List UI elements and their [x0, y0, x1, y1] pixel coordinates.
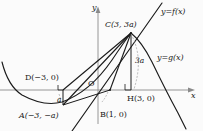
label-point-b: B(1, 0)	[100, 111, 127, 119]
label-curve-g: y=g(x)	[157, 54, 184, 62]
label-point-d: D(−3, 0)	[25, 74, 59, 82]
geometry-figure: y x O C(3, 3a) D(−3, 0) A(−3, −a) B(1, 0…	[0, 0, 203, 131]
label-point-a: A(−3, −a)	[19, 112, 58, 120]
label-segment-a: a	[57, 96, 61, 104]
point-dot-b	[109, 89, 111, 91]
label-point-c: C(3, 3a)	[105, 21, 137, 29]
y-axis	[96, 7, 101, 125]
label-point-h: H(3, 0)	[127, 95, 155, 103]
point-dot-c	[130, 32, 132, 34]
dashed-arc-b	[101, 92, 108, 103]
right-angle-marker-h	[125, 84, 131, 90]
right-angle-marker-d	[58, 85, 63, 90]
axis-label-y: y	[92, 4, 96, 12]
axis-label-x: x	[191, 92, 195, 100]
origin-label: O	[88, 80, 94, 88]
label-segment-3a: 3a	[135, 57, 144, 65]
label-curve-f: y=f(x)	[161, 8, 185, 16]
